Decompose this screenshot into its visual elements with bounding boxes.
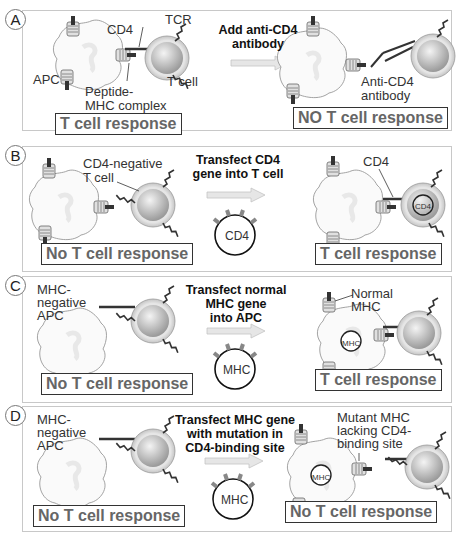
left-result-box: T cell response [55, 113, 182, 135]
left-result-box: No T cell response [41, 373, 193, 395]
right-result-box: T cell response [315, 243, 442, 265]
anti-cd4-label-line2: antibody [361, 89, 410, 102]
step-line: Transfect normal [181, 283, 291, 297]
peptide-mhc-complex [374, 329, 394, 341]
left-result-box: No T cell response [41, 243, 193, 265]
step-text: Transfect normal MHC gene into APC [181, 283, 291, 325]
normal-mhc-molecule [323, 292, 335, 312]
t-cell [131, 299, 175, 343]
left-result-box: No T cell response [33, 505, 185, 527]
plasmid-label: MHC [221, 494, 248, 507]
step-line: Add anti-CD4 [203, 23, 313, 37]
mhc-molecule [287, 84, 299, 104]
mhc-negative-label-line3: APC [37, 309, 64, 322]
cd4-label: CD4 [107, 23, 133, 36]
cd4-label: CD4 [363, 155, 389, 168]
step-line: antibody [203, 37, 313, 51]
tcr-icon [161, 469, 180, 483]
step-line: MHC gene [181, 297, 291, 311]
tcr-icon [163, 170, 174, 187]
t-cell [131, 429, 175, 473]
plasmid-label: MHC [223, 364, 250, 377]
mutant-mhc-molecule [352, 463, 372, 475]
mhc-negative-label-line3: APC [37, 439, 64, 452]
step-text: Transfect CD4 gene into T cell [183, 153, 293, 181]
peptide-mhc-complex [376, 201, 396, 213]
step-line: Transfect CD4 [183, 153, 293, 167]
tcr-icon [435, 432, 446, 449]
step-text: Add anti-CD4 antibody [203, 23, 313, 51]
tcr-icon [427, 298, 438, 315]
tcr-icon [431, 170, 442, 187]
panel-a: A CD4 TCR APC T cell Peptide- MHC comple… [22, 10, 452, 131]
tcr-icon [161, 223, 180, 237]
plasmid-label: CD4 [225, 230, 249, 243]
right-result-box: T cell response [315, 369, 442, 391]
right-result-box: NO T cell response [293, 107, 448, 129]
apc-label: APC [33, 73, 60, 86]
step-line: with mutation in [173, 427, 297, 441]
right-result-box: No T cell response [285, 501, 437, 523]
mhc-molecule [327, 156, 339, 176]
t-cell [397, 311, 441, 355]
panel-d: D MHC- negative APC Mutant MHC lacking C… [22, 406, 452, 532]
apc-cell [313, 170, 382, 240]
mhc-complex-label: MHC complex [85, 99, 167, 112]
normal-mhc-label-line2: MHC [351, 300, 381, 313]
tcr-icon [161, 339, 180, 353]
step-line: Transfect MHC gene [173, 413, 297, 427]
step-line: CD4-binding site [173, 441, 297, 455]
step-line: into APC [181, 311, 291, 325]
mhc-molecule [67, 16, 79, 36]
anti-cd4-antibody [371, 41, 415, 67]
process-arrow [207, 188, 265, 202]
panel-b: B CD4-negative T cell CD4 CD4 CD4 Transf… [22, 146, 452, 272]
tcr-icon [388, 454, 407, 468]
tcr-icon [425, 351, 444, 365]
mhc-molecule [94, 201, 114, 213]
process-arrow [207, 324, 265, 338]
t-cell [411, 34, 455, 78]
panel-c: C MHC- negative APC Normal MHC MHC MHC T… [22, 276, 452, 403]
mhc-molecule [43, 158, 55, 178]
mhc-molecule [346, 59, 366, 71]
tcr-icon [427, 223, 446, 237]
tcr-label: TCR [165, 13, 192, 26]
cd4-negative-label: CD4-negative [83, 157, 163, 170]
t-cell [405, 445, 449, 489]
cell-gene-label: MHC [342, 337, 360, 350]
step-text: Transfect MHC gene with mutation in CD4-… [173, 413, 297, 455]
t-cell [131, 183, 175, 227]
cd4-negative-label-line2: T cell [83, 171, 114, 184]
tcr-icon [163, 286, 174, 303]
mutant-mhc-label-line3: binding site [337, 437, 403, 450]
peptide-mhc-complex [116, 49, 136, 61]
peptide-label: Peptide- [85, 85, 133, 98]
step-line: gene into T cell [183, 167, 293, 181]
cell-gene-label: MHC [312, 471, 330, 484]
mhc-molecule [61, 70, 73, 90]
anti-cd4-label-line1: Anti-CD4 [361, 75, 414, 88]
process-arrow [205, 454, 263, 468]
tcr-icon [433, 485, 452, 499]
cell-gene-label: CD4 [415, 200, 431, 213]
t-cell-label: T cell [167, 75, 198, 88]
